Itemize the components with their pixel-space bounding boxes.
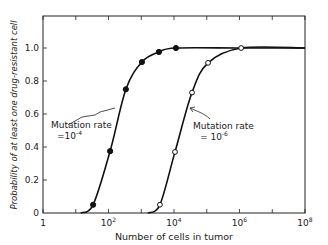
y-tick-label: 0 — [33, 208, 39, 218]
open-data-point — [239, 46, 244, 51]
filled-data-point — [139, 59, 144, 64]
chart: 1102104106108 00.20.40.60.81.0 Number of… — [0, 0, 328, 245]
plot-frame — [43, 16, 305, 213]
svg-text:=10-4: =10-4 — [57, 129, 82, 141]
filled-data-point — [108, 149, 113, 154]
y-tick-label: 0.8 — [25, 76, 40, 86]
filled-data-point — [123, 87, 128, 92]
y-axis-label: Probability of at least one drug-resista… — [9, 20, 19, 210]
y-tick-label: 0.6 — [25, 109, 40, 119]
open-data-point — [173, 150, 178, 155]
filled-data-point — [173, 45, 178, 50]
x-tick-label: 104 — [166, 216, 181, 228]
open-data-point — [158, 202, 163, 207]
y-tick-label: 0.4 — [25, 142, 40, 152]
annotation-mutation-rate-1e-4: Mutation rate =10-4 — [51, 108, 115, 141]
x-axis-label: Number of cells in tumor — [115, 231, 233, 242]
y-tick-label: 1.0 — [25, 43, 40, 53]
x-tick-label: 108 — [297, 216, 312, 228]
open-data-point — [190, 90, 195, 95]
open-data-point — [206, 60, 211, 65]
y-axis-ticks: 00.20.40.60.81.0 — [25, 43, 47, 218]
x-tick-label: 102 — [101, 216, 116, 228]
filled-data-point — [91, 202, 96, 207]
annotation-mutation-rate-1e-6: Mutation rate = 10-6 — [190, 107, 254, 142]
x-tick-label: 106 — [232, 216, 247, 228]
y-tick-label: 0.2 — [25, 175, 39, 185]
filled-data-point — [156, 49, 161, 54]
annotation-arrow — [190, 108, 210, 119]
x-tick-label: 1 — [40, 218, 46, 228]
svg-text:= 10-6: = 10-6 — [200, 130, 228, 142]
